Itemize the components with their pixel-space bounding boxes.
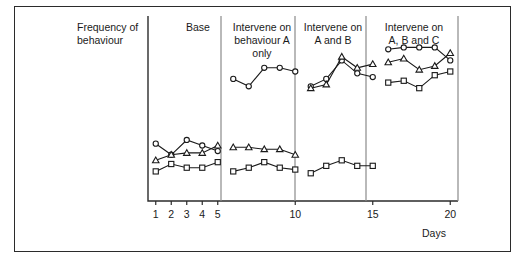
data-point — [355, 163, 360, 168]
data-point — [153, 141, 158, 146]
data-point — [246, 165, 251, 170]
data-point — [386, 80, 391, 85]
data-point — [215, 148, 220, 153]
data-series-layer — [153, 45, 454, 176]
data-point — [401, 78, 406, 83]
data-point — [215, 142, 222, 148]
data-point — [370, 61, 377, 67]
data-line — [311, 60, 373, 86]
data-point — [448, 69, 453, 74]
data-point — [324, 163, 329, 168]
data-point — [231, 76, 236, 81]
data-point — [293, 69, 298, 74]
panel-title-intervene-abc-2: A, B and C — [389, 34, 440, 46]
data-point — [200, 165, 205, 170]
series-triangle — [153, 50, 454, 163]
x-axis-label: Days — [422, 227, 446, 239]
panel-title-intervene-abc-1: Intervene on — [385, 21, 444, 33]
data-point — [277, 65, 282, 70]
data-point — [293, 167, 298, 172]
data-point — [323, 81, 330, 87]
data-point — [432, 45, 437, 50]
y-axis-label-line1: Frequency of — [77, 21, 138, 33]
x-tick-label: 10 — [289, 208, 301, 220]
data-point — [262, 65, 267, 70]
data-point — [417, 45, 422, 50]
x-tick-label: 15 — [367, 208, 379, 220]
x-tick-label: 5 — [215, 208, 221, 220]
data-point — [184, 137, 189, 142]
figure-frame: Frequency of behaviour Base Intervene on… — [14, 6, 511, 252]
panel-title-intervene-a-1: Intervene on — [233, 21, 292, 33]
data-point — [417, 86, 422, 91]
panel-title-base: Base — [186, 21, 210, 33]
series-square — [153, 69, 453, 176]
data-point — [401, 45, 406, 50]
x-tick-label: 3 — [184, 208, 190, 220]
data-point — [153, 169, 158, 174]
panel-title-intervene-a-2: behaviour A — [234, 34, 289, 46]
data-point — [339, 53, 346, 59]
data-point — [215, 160, 220, 165]
panel-title-intervene-a-3: only — [252, 47, 272, 59]
data-point — [246, 84, 251, 89]
data-point — [169, 161, 174, 166]
data-point — [401, 55, 408, 61]
data-point — [231, 169, 236, 174]
data-point — [370, 163, 375, 168]
data-point — [370, 74, 375, 79]
data-point — [308, 171, 313, 176]
data-point — [386, 47, 391, 52]
data-point — [448, 58, 453, 63]
y-axis-label-line2: behaviour — [77, 34, 124, 46]
data-point — [262, 160, 267, 165]
multiple-baseline-chart: Frequency of behaviour Base Intervene on… — [15, 7, 512, 253]
data-point — [432, 73, 437, 78]
data-point — [200, 143, 205, 148]
x-tick-label: 4 — [199, 208, 205, 220]
data-point — [277, 165, 282, 170]
data-point — [184, 165, 189, 170]
panel-title-intervene-ab-2: A and B — [315, 34, 352, 46]
panel-title-intervene-ab-1: Intervene on — [304, 21, 363, 33]
data-point — [339, 158, 344, 163]
x-tick-label: 20 — [444, 208, 456, 220]
x-tick-label: 2 — [168, 208, 174, 220]
x-axis-ticks: 12345101520 — [153, 201, 456, 220]
x-tick-label: 1 — [153, 208, 159, 220]
data-point — [447, 50, 454, 56]
data-point — [355, 71, 360, 76]
